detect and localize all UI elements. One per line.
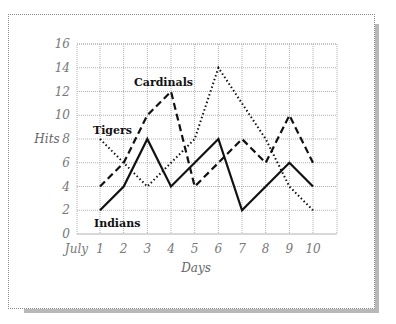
series-label-cardinals: Cardinals <box>134 76 193 89</box>
x-tick-label: 9 <box>286 242 294 256</box>
x-axis-label: Days <box>180 261 211 275</box>
y-tick-label: 12 <box>55 85 70 99</box>
x-tick-label: 3 <box>144 242 152 256</box>
x-tick-label: 4 <box>166 242 175 256</box>
series-label-indians: Indians <box>94 217 140 230</box>
x-tick-label: 1 <box>96 242 104 256</box>
y-tick-label: 4 <box>61 180 70 194</box>
y-tick-label: 16 <box>55 37 71 51</box>
y-tick-label: 14 <box>55 61 70 75</box>
grid-lines <box>77 44 337 234</box>
x-axis-ticks: 12345678910 <box>96 242 321 256</box>
x-tick-label: 7 <box>238 242 246 256</box>
x-tick-label: 8 <box>262 242 270 256</box>
x-tick-label: 2 <box>119 242 128 256</box>
x-tick-label: 6 <box>215 242 223 256</box>
y-axis-label: Hits <box>33 132 59 146</box>
series-label-tigers: Tigers <box>93 124 132 137</box>
line-chart: 0246810121416 12345678910 Hits Days July… <box>0 0 396 324</box>
y-tick-label: 8 <box>62 132 70 146</box>
x-tick-label: 5 <box>191 242 199 256</box>
x-tick-label: 10 <box>305 242 321 256</box>
y-tick-label: 2 <box>61 203 70 217</box>
y-tick-label: 0 <box>62 227 70 241</box>
y-tick-label: 10 <box>55 108 71 122</box>
y-tick-label: 6 <box>62 156 70 170</box>
x-axis-prefix-label: July <box>62 242 88 256</box>
